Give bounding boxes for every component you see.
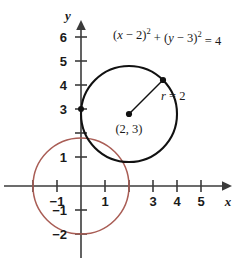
y-tick-label-3: 3	[60, 102, 67, 117]
y-axis-label: y	[63, 8, 71, 23]
x-tick-label-4: 4	[173, 194, 181, 209]
y-tick-labels: 6 5 4 3 1 −1 −2	[52, 30, 68, 242]
y-tick-label-6: 6	[60, 30, 67, 45]
tangency-point-dot	[78, 106, 84, 112]
x-axis-arrow-icon	[222, 181, 232, 191]
y-tick-label--1: −1	[52, 203, 67, 218]
x-tick-label-3: 3	[149, 194, 156, 209]
coordinate-plane-figure: −1 1 3 4 5 6 5 4 3 1 −1 −2 x y (x − 2)2 …	[0, 0, 242, 266]
eq-equals-four: = 4	[202, 34, 222, 48]
center-point-dot	[126, 111, 132, 117]
eq-minus-two: − 2)	[123, 28, 147, 42]
y-tick-label--2: −2	[52, 227, 67, 242]
circle-graph-svg: −1 1 3 4 5 6 5 4 3 1 −1 −2 x y (x − 2)2 …	[0, 0, 242, 266]
eq-plus: + (	[151, 31, 168, 45]
x-axis	[4, 181, 232, 191]
y-tick-label-5: 5	[60, 54, 67, 69]
x-tick-label-5: 5	[197, 194, 204, 209]
radius-length-label: r = 2	[161, 89, 185, 103]
center-coordinate-label: (2, 3)	[115, 122, 142, 136]
circle-equation-label: (x − 2)2 + (y − 3)2 = 4	[113, 26, 222, 48]
eq-minus-three: − 3)	[174, 31, 198, 45]
radius-endpoint-dot	[160, 77, 166, 83]
radius-equals-2: = 2	[166, 89, 186, 103]
x-axis-label: x	[224, 194, 232, 209]
radius-line	[129, 80, 163, 114]
y-tick-label-4: 4	[60, 78, 68, 93]
x-tick-label-1: 1	[101, 194, 108, 209]
y-axis-arrow-icon	[76, 20, 86, 30]
y-axis	[76, 20, 86, 258]
y-tick-label-1: 1	[60, 150, 67, 165]
